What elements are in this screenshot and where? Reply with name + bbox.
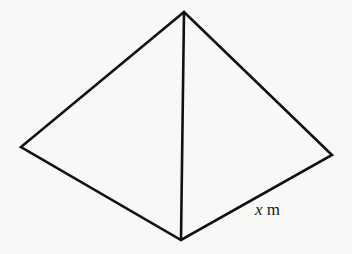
pyramid-figure bbox=[0, 0, 352, 254]
pyramid-central-edge bbox=[181, 12, 184, 240]
diagram-canvas: x m bbox=[0, 0, 352, 254]
edge-length-variable: x bbox=[255, 200, 263, 219]
pyramid-outline bbox=[21, 12, 332, 240]
edge-length-label: x m bbox=[255, 200, 280, 220]
edge-length-unit: m bbox=[267, 200, 280, 219]
